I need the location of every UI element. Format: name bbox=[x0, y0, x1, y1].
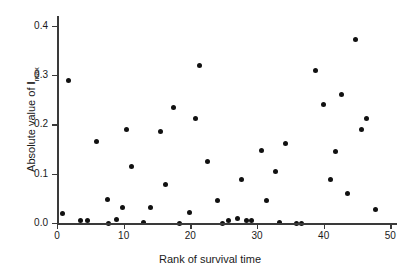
x-axis-tick-label: 0 bbox=[42, 231, 72, 241]
x-axis-tick-label: 40 bbox=[309, 231, 339, 241]
x-axis-tick bbox=[257, 224, 258, 229]
data-point bbox=[171, 105, 176, 110]
data-point bbox=[239, 177, 244, 182]
x-axis-line bbox=[57, 223, 397, 225]
data-point bbox=[85, 218, 90, 223]
data-point bbox=[215, 198, 220, 203]
scatter-plot-figure: 0.00.10.20.30.4 01020304050 Rank of surv… bbox=[0, 0, 420, 278]
x-axis-tick-label: 50 bbox=[375, 231, 405, 241]
y-axis-tick bbox=[52, 26, 57, 27]
data-point bbox=[205, 159, 210, 164]
x-axis-tick bbox=[190, 224, 191, 229]
data-point bbox=[78, 218, 83, 223]
x-axis-tick-label: 20 bbox=[175, 231, 205, 241]
data-point bbox=[353, 37, 358, 42]
y-axis-tick-label: 0.0 bbox=[34, 218, 48, 228]
data-point bbox=[148, 205, 153, 210]
data-point bbox=[197, 63, 202, 68]
data-point bbox=[124, 127, 129, 132]
data-point bbox=[264, 198, 269, 203]
data-point bbox=[345, 191, 350, 196]
data-point bbox=[163, 182, 168, 187]
data-point bbox=[364, 116, 369, 121]
data-point bbox=[328, 177, 333, 182]
data-point bbox=[313, 68, 318, 73]
x-axis-tick bbox=[124, 224, 125, 229]
data-point bbox=[105, 197, 110, 202]
y-axis-tick bbox=[52, 124, 57, 125]
data-point bbox=[187, 210, 192, 215]
y-axis-title-subscript: max bbox=[32, 67, 41, 81]
data-point bbox=[114, 217, 119, 222]
x-axis-tick-label: 30 bbox=[242, 231, 272, 241]
data-point bbox=[273, 169, 278, 174]
x-axis-title: Rank of survival time bbox=[0, 253, 420, 265]
plot-area bbox=[57, 16, 397, 223]
data-point bbox=[60, 211, 65, 216]
data-point bbox=[129, 164, 134, 169]
data-point bbox=[359, 127, 364, 132]
data-point bbox=[321, 102, 326, 107]
y-axis-tick bbox=[52, 75, 57, 76]
y-axis-tick bbox=[52, 174, 57, 175]
data-point bbox=[373, 207, 378, 212]
x-axis-tick bbox=[324, 224, 325, 229]
x-axis-tick bbox=[390, 224, 391, 229]
x-axis-tick bbox=[57, 224, 58, 229]
y-axis-title: Absolute value of Imax bbox=[25, 25, 40, 215]
x-axis-tick-label: 10 bbox=[109, 231, 139, 241]
data-point bbox=[66, 78, 71, 83]
data-point bbox=[94, 139, 99, 144]
data-point bbox=[158, 129, 163, 134]
data-point bbox=[120, 205, 125, 210]
data-point bbox=[283, 141, 288, 146]
y-axis-line bbox=[57, 16, 59, 224]
data-point bbox=[333, 149, 338, 154]
y-axis-title-prefix: Absolute value of bbox=[25, 84, 37, 171]
data-point bbox=[259, 148, 264, 153]
data-point bbox=[235, 216, 240, 221]
data-point bbox=[339, 92, 344, 97]
y-axis-title-symbol: I bbox=[25, 81, 37, 84]
data-point bbox=[193, 116, 198, 121]
